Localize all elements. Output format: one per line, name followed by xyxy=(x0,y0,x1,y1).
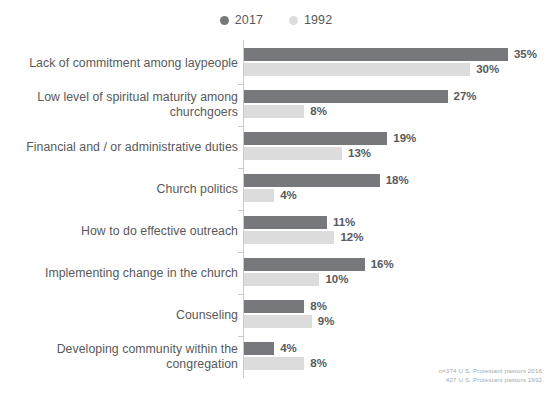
category-label-line: congregation xyxy=(166,357,238,372)
bar-group: Church politics18%4% xyxy=(0,168,552,210)
category-label-line: Lack of commitment among laypeople xyxy=(29,56,238,71)
category-label: Developing community within thecongregat… xyxy=(14,336,238,378)
bar-value-label: 10% xyxy=(325,274,348,286)
bar-value-label: 9% xyxy=(318,316,335,328)
bar-value-label: 16% xyxy=(371,259,394,271)
bar-row-1992: 10% xyxy=(244,273,348,286)
bar-2017[interactable] xyxy=(244,216,327,229)
axis-tick xyxy=(238,126,244,127)
bar-group: Lack of commitment among laypeople35%30% xyxy=(0,42,552,84)
bar-1992[interactable] xyxy=(244,273,319,286)
legend-item-1992: 1992 xyxy=(289,14,332,27)
bar-row-2017: 4% xyxy=(244,342,297,355)
bar-value-label: 13% xyxy=(348,148,371,160)
bar-1992[interactable] xyxy=(244,189,274,202)
bar-2017[interactable] xyxy=(244,300,304,313)
legend-dot-icon xyxy=(289,16,298,25)
bar-1992[interactable] xyxy=(244,231,334,244)
category-label: Lack of commitment among laypeople xyxy=(14,42,238,84)
plot-area: Lack of commitment among laypeople35%30%… xyxy=(0,38,552,382)
bar-value-label: 8% xyxy=(310,106,327,118)
axis-tick xyxy=(238,168,244,169)
bar-1992[interactable] xyxy=(244,315,312,328)
axis-tick xyxy=(238,294,244,295)
bar-chart: 2017 1992 Lack of commitment among laype… xyxy=(0,0,552,398)
chart-footnote: n=374 U.S. Protestant pastors 2016; 427 … xyxy=(438,367,544,384)
bar-1992[interactable] xyxy=(244,63,470,76)
bar-row-1992: 30% xyxy=(244,63,499,76)
bar-value-label: 35% xyxy=(514,49,537,61)
category-label-line: Church politics xyxy=(157,182,238,197)
bar-group: Counseling8%9% xyxy=(0,294,552,336)
bar-row-2017: 27% xyxy=(244,90,477,103)
bar-value-label: 12% xyxy=(340,232,363,244)
bar-1992[interactable] xyxy=(244,105,304,118)
bar-value-label: 11% xyxy=(333,217,355,229)
axis-tick xyxy=(238,84,244,85)
axis-tick xyxy=(238,252,244,253)
category-label: How to do effective outreach xyxy=(14,210,238,252)
bar-row-1992: 4% xyxy=(244,189,297,202)
bar-2017[interactable] xyxy=(244,342,274,355)
axis-tick xyxy=(238,336,244,337)
bar-1992[interactable] xyxy=(244,357,304,370)
bar-2017[interactable] xyxy=(244,258,365,271)
bar-row-2017: 19% xyxy=(244,132,416,145)
bar-value-label: 4% xyxy=(280,343,297,355)
footnote-line-2: 427 U.S. Protestant pastors 1992. xyxy=(438,376,544,385)
bar-2017[interactable] xyxy=(244,132,387,145)
legend-label-1992: 1992 xyxy=(304,14,332,27)
legend-dot-icon xyxy=(220,16,229,25)
legend-item-2017: 2017 xyxy=(220,14,263,27)
bar-2017[interactable] xyxy=(244,174,380,187)
bar-group: Financial and / or administrative duties… xyxy=(0,126,552,168)
bar-row-2017: 35% xyxy=(244,48,537,61)
category-label: Implementing change in the church xyxy=(14,252,238,294)
chart-legend: 2017 1992 xyxy=(0,14,552,27)
bar-row-2017: 11% xyxy=(244,216,355,229)
bar-group: Low level of spiritual maturity amongchu… xyxy=(0,84,552,126)
footnote-line-1: n=374 U.S. Protestant pastors 2016; xyxy=(438,367,544,376)
bar-row-1992: 8% xyxy=(244,357,327,370)
category-label: Low level of spiritual maturity amongchu… xyxy=(14,84,238,126)
bar-row-2017: 8% xyxy=(244,300,327,313)
category-label: Financial and / or administrative duties xyxy=(14,126,238,168)
bar-value-label: 30% xyxy=(476,64,499,76)
bar-value-label: 27% xyxy=(454,91,477,103)
bar-row-1992: 13% xyxy=(244,147,371,160)
category-label-line: Counseling xyxy=(176,308,238,323)
bar-row-2017: 16% xyxy=(244,258,394,271)
category-label-line: Developing community within the xyxy=(57,342,238,357)
bar-group: How to do effective outreach11%12% xyxy=(0,210,552,252)
bar-value-label: 8% xyxy=(310,358,327,370)
bar-value-label: 8% xyxy=(310,301,327,313)
category-label-line: How to do effective outreach xyxy=(81,224,238,239)
bar-group: Implementing change in the church16%10% xyxy=(0,252,552,294)
bar-value-label: 4% xyxy=(280,190,297,202)
axis-tick xyxy=(238,210,244,211)
bar-row-2017: 18% xyxy=(244,174,409,187)
category-label-line: Financial and / or administrative duties xyxy=(26,140,238,155)
category-label: Counseling xyxy=(14,294,238,336)
category-label-line: Low level of spiritual maturity among xyxy=(37,90,238,105)
category-label-line: churchgoers xyxy=(170,105,238,120)
category-label: Church politics xyxy=(14,168,238,210)
bar-row-1992: 8% xyxy=(244,105,327,118)
bar-value-label: 18% xyxy=(386,175,409,187)
legend-label-2017: 2017 xyxy=(235,14,263,27)
bar-1992[interactable] xyxy=(244,147,342,160)
bar-2017[interactable] xyxy=(244,48,508,61)
category-label-line: Implementing change in the church xyxy=(45,266,238,281)
bar-row-1992: 9% xyxy=(244,315,334,328)
bar-2017[interactable] xyxy=(244,90,448,103)
bar-value-label: 19% xyxy=(393,133,416,145)
bar-row-1992: 12% xyxy=(244,231,364,244)
